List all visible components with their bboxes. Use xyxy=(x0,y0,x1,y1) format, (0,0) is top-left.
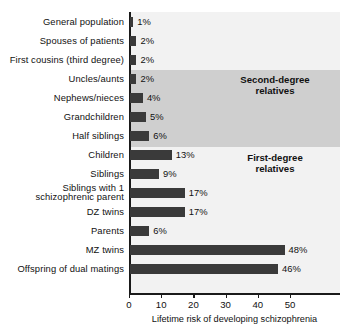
category-label: General population xyxy=(0,12,124,31)
bar xyxy=(130,93,143,103)
schizophrenia-risk-bar-chart: General population1%Spouses of patients2… xyxy=(0,0,347,334)
bar-value-label: 17% xyxy=(189,183,208,202)
bar-row: First cousins (third degree)2% xyxy=(0,50,347,69)
category-label: MZ twins xyxy=(0,240,124,259)
bar-value-label: 4% xyxy=(147,88,161,107)
group-label-first-degree-line2: relatives xyxy=(214,163,336,174)
bar-value-label: 13% xyxy=(176,145,195,164)
group-label-first-degree-line1: First-degree xyxy=(214,152,336,163)
group-label-second-degree: Second-degree relatives xyxy=(214,74,336,96)
category-label: DZ twins xyxy=(0,202,124,221)
bar xyxy=(130,207,185,217)
x-tick-label: 50 xyxy=(285,299,296,310)
x-tick-label: 10 xyxy=(156,299,167,310)
bar xyxy=(130,264,278,274)
bar xyxy=(130,36,136,46)
category-label: Half siblings xyxy=(0,126,124,145)
bar-row: Grandchildren5% xyxy=(0,107,347,126)
bar xyxy=(130,150,172,160)
bar-value-label: 6% xyxy=(153,221,167,240)
x-tick-mark xyxy=(129,293,130,298)
bar-value-label: 48% xyxy=(289,240,308,259)
x-tick-mark xyxy=(193,293,194,298)
category-label-line2: schizophrenic parent xyxy=(0,192,124,202)
bar-value-label: 6% xyxy=(153,126,167,145)
bar-value-label: 2% xyxy=(140,69,154,88)
bar-value-label: 46% xyxy=(282,259,301,278)
bar xyxy=(130,226,149,236)
bar-row: Half siblings6% xyxy=(0,126,347,145)
x-tick-mark xyxy=(161,293,162,298)
category-label: Uncles/aunts xyxy=(0,69,124,88)
bar-row: DZ twins17% xyxy=(0,202,347,221)
bar-value-label: 5% xyxy=(150,107,164,126)
group-label-second-degree-line1: Second-degree xyxy=(214,74,336,85)
category-label: Children xyxy=(0,145,124,164)
x-tick-label: 0 xyxy=(126,299,131,310)
bar-value-label: 17% xyxy=(189,202,208,221)
bar xyxy=(130,55,136,65)
bar-row: General population1% xyxy=(0,12,347,31)
bar xyxy=(130,74,136,84)
x-tick-label: 30 xyxy=(220,299,231,310)
bar-row: Parents6% xyxy=(0,221,347,240)
bar xyxy=(130,188,185,198)
bar xyxy=(130,169,159,179)
group-label-first-degree: First-degree relatives xyxy=(214,152,336,174)
category-label: Nephews/nieces xyxy=(0,88,124,107)
bar-row: Spouses of patients2% xyxy=(0,31,347,50)
x-tick-label: 40 xyxy=(252,299,263,310)
category-label: Siblings xyxy=(0,164,124,183)
x-tick-mark xyxy=(226,293,227,298)
bar-row: MZ twins48% xyxy=(0,240,347,259)
bar xyxy=(130,131,149,141)
bar-value-label: 1% xyxy=(137,12,151,31)
bar-value-label: 9% xyxy=(163,164,177,183)
bar xyxy=(130,112,146,122)
bar-row: Siblings with 1schizophrenic parent17% xyxy=(0,183,347,202)
category-label: Spouses of patients xyxy=(0,31,124,50)
bar xyxy=(130,17,133,27)
category-label: First cousins (third degree) xyxy=(0,50,124,69)
x-tick-label: 20 xyxy=(188,299,199,310)
bar xyxy=(130,245,285,255)
x-tick-mark xyxy=(290,293,291,298)
group-label-second-degree-line2: relatives xyxy=(214,85,336,96)
x-tick-mark xyxy=(258,293,259,298)
bar-value-label: 2% xyxy=(140,31,154,50)
x-axis-title: Lifetime risk of developing schizophreni… xyxy=(129,314,340,324)
category-label: Offspring of dual matings xyxy=(0,259,124,278)
category-label: Siblings with 1schizophrenic parent xyxy=(0,183,124,202)
bar-value-label: 2% xyxy=(140,50,154,69)
category-label: Parents xyxy=(0,221,124,240)
category-label: Grandchildren xyxy=(0,107,124,126)
bar-row: Offspring of dual matings46% xyxy=(0,259,347,278)
